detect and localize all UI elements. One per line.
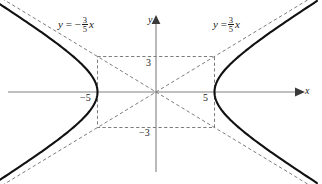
tick-label-y-negative-3: −3 bbox=[139, 128, 150, 138]
asymptote-right-denominator: 5 bbox=[228, 24, 234, 34]
asymptote-left-sign: − bbox=[75, 18, 81, 30]
asymptote-left-equals: = bbox=[66, 18, 72, 30]
hyperbola-figure bbox=[0, 0, 322, 184]
asymptote-left-variable: x bbox=[89, 18, 94, 30]
asymptote-left-lhs: y bbox=[58, 18, 63, 30]
x-axis-label: x bbox=[305, 86, 309, 96]
asymptote-right-equation-label: y =35x bbox=[213, 16, 240, 35]
asymptote-right-lhs: y bbox=[213, 18, 218, 30]
asymptote-left-numerator: 3 bbox=[82, 16, 88, 25]
asymptote-right-equals: = bbox=[221, 18, 227, 30]
y-axis-label: y bbox=[148, 15, 152, 25]
asymptote-right-fraction: 35 bbox=[228, 16, 234, 35]
tick-label-x-5: 5 bbox=[203, 93, 208, 103]
asymptote-left-equation-label: y = −35x bbox=[58, 16, 94, 35]
asymptote-left-fraction: 35 bbox=[82, 16, 88, 35]
asymptote-right-numerator: 3 bbox=[228, 16, 234, 25]
asymptote-left-denominator: 5 bbox=[82, 24, 88, 34]
asymptote-right-variable: x bbox=[235, 18, 240, 30]
tick-label-x-negative-5: −5 bbox=[80, 93, 91, 103]
tick-label-y-3: 3 bbox=[146, 58, 151, 68]
